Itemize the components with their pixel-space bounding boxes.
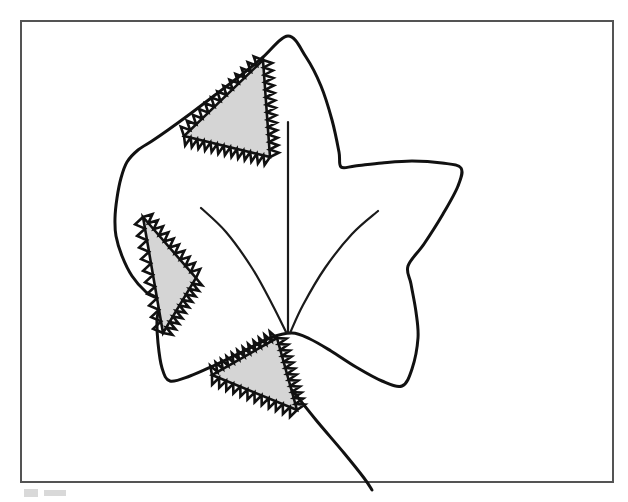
figure-root (0, 0, 628, 502)
caption-smudge-right (44, 490, 66, 496)
page-background (0, 0, 628, 502)
leaf-figure-canvas (0, 0, 628, 502)
caption-smudges-group (24, 489, 66, 497)
caption-smudge-left (24, 489, 38, 497)
